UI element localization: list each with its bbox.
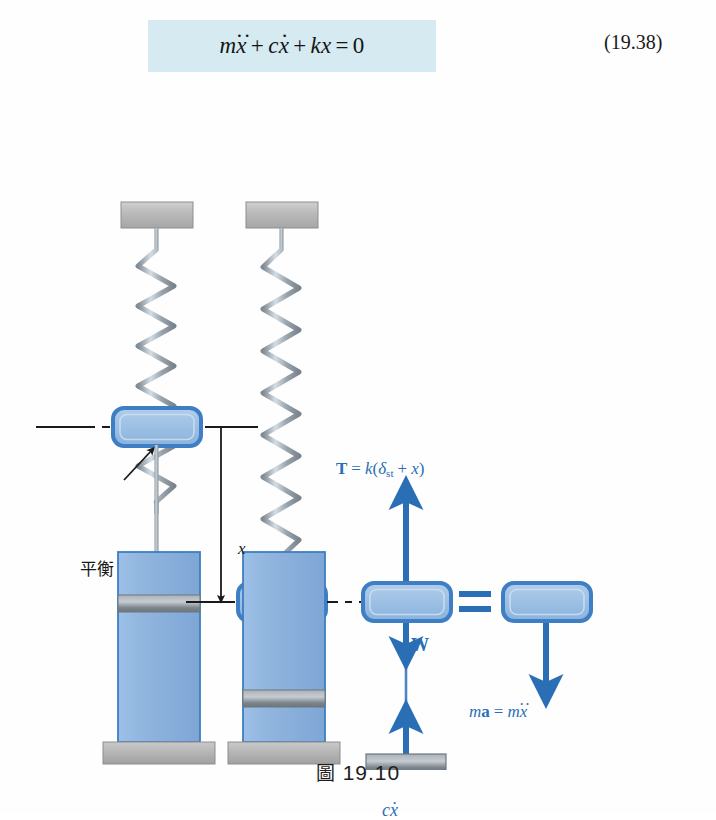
equation-19-38: m··x+c·x+kx=0	[148, 20, 436, 72]
inertia-mass-symbol-2: m	[507, 702, 519, 721]
damper-cylinder-right	[243, 552, 325, 742]
tension-delta-subscript: st	[386, 467, 393, 479]
tension-force-label: T=k(δst+x)	[336, 459, 424, 479]
assembly-equilibrium	[36, 202, 215, 764]
caption-number: 19.10	[343, 761, 401, 784]
damping-force-label: c·x	[382, 800, 398, 820]
free-body-diagram	[363, 494, 451, 770]
spring-right	[263, 250, 299, 557]
equation-damping-var: ·x	[279, 33, 290, 59]
tension-vector-symbol: T	[336, 459, 347, 478]
damping-velocity-symbol: ·x	[390, 800, 398, 820]
inertia-accel-vector: a	[481, 702, 490, 721]
equation-mass-term: m	[219, 33, 236, 59]
equation-equals: =	[331, 33, 352, 59]
tension-plus: +	[394, 459, 412, 478]
damper-cylinder-left	[118, 552, 200, 742]
collar-fbd	[363, 583, 451, 621]
equation-mass-var: ··x	[236, 33, 247, 59]
displacement-label: x	[238, 539, 246, 559]
inertia-accel-symbol: ··x	[520, 702, 528, 722]
assembly-displaced	[186, 202, 366, 764]
equilibrium-label: 平衡	[80, 555, 114, 580]
equation-stiffness-var: x	[321, 33, 332, 59]
equation-plus-1: +	[247, 33, 268, 59]
figure-19-10: T=k(δst+x) W c·x ma=m··x x 平衡	[0, 90, 716, 770]
inertia-equals: =	[490, 702, 508, 721]
inertia-force-label: ma=m··x	[469, 702, 527, 722]
equation-damping-term: c	[268, 33, 279, 59]
tension-displacement-symbol: x	[411, 459, 419, 478]
equation-rhs: 0	[353, 33, 365, 59]
equilibrium-leader-arrow	[124, 450, 152, 480]
equation-stiffness-term: k	[310, 33, 321, 59]
collar-kinetic	[503, 583, 591, 621]
tension-delta-symbol: δ	[378, 459, 386, 478]
equals-sign-symbol	[459, 591, 491, 612]
weight-force-label: W	[411, 635, 429, 656]
damping-coefficient-symbol: c	[382, 800, 390, 820]
tension-paren-close: )	[419, 459, 425, 478]
caption-symbol: 圖	[316, 762, 336, 784]
inertia-mass-symbol: m	[469, 702, 481, 721]
collar-left	[113, 408, 201, 446]
kinetic-diagram	[503, 583, 591, 690]
equation-number: (19.38)	[604, 31, 662, 54]
ceiling-support-right	[246, 202, 318, 228]
equation-plus-2: +	[289, 33, 310, 59]
tension-equals: =	[347, 459, 365, 478]
ceiling-support-left	[121, 202, 193, 228]
figure-caption: 圖 19.10	[0, 758, 716, 785]
